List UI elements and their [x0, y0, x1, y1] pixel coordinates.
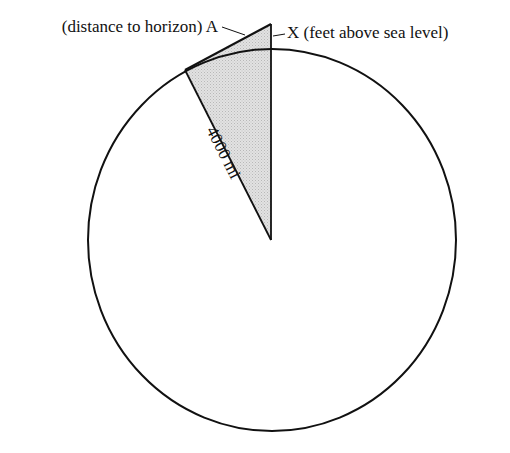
- leader-line-x: [273, 34, 285, 36]
- earth-horizon-diagram: (distance to horizon) A X (feet above se…: [0, 0, 510, 453]
- earth-circle: [88, 49, 456, 431]
- label-distance-to-horizon: (distance to horizon) A: [62, 17, 219, 36]
- label-feet-above-sea-level: X (feet above sea level): [287, 23, 448, 42]
- shaded-triangle: [185, 24, 271, 240]
- leader-line-a: [222, 27, 245, 35]
